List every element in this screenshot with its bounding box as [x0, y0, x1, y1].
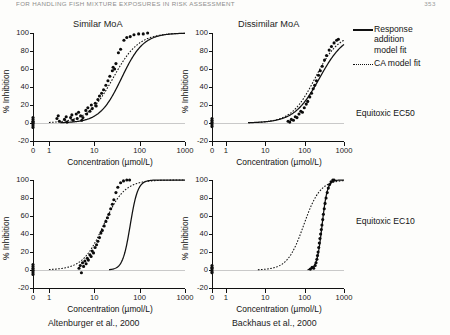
data-point: [314, 264, 317, 267]
legend: Response addition model fit CA model fit: [353, 24, 449, 70]
y-tick-label: -20: [7, 283, 29, 292]
data-point: [312, 87, 315, 90]
data-point: [119, 181, 122, 184]
y-axis-title: % Inhibition: [180, 217, 190, 260]
x-tick: [33, 289, 34, 293]
data-point: [313, 84, 316, 87]
x-tick-label: 10: [252, 146, 278, 155]
x-tick: [226, 289, 227, 293]
data-point: [79, 264, 82, 267]
data-point: [314, 261, 317, 264]
row-label-ec10: Equitoxic EC10: [356, 216, 415, 226]
data-layer-dissimilar-ec10: [212, 180, 344, 288]
curve-ca-model-fit: [49, 33, 185, 122]
data-point: [320, 223, 323, 226]
data-point: [326, 191, 329, 194]
data-point: [114, 191, 117, 194]
data-point: [322, 213, 325, 216]
x-axis-title: Concentration (µmol/L): [60, 157, 160, 167]
data-point: [315, 258, 318, 261]
x-tick: [305, 142, 306, 146]
data-point: [108, 75, 111, 78]
dotted-line-icon: [353, 64, 373, 65]
x-tick: [49, 289, 50, 293]
data-point: [63, 118, 66, 121]
y-tick-label: -20: [186, 283, 208, 292]
x-tick: [212, 142, 213, 146]
data-point: [117, 51, 120, 54]
data-point: [317, 250, 320, 253]
y-tick: [30, 234, 34, 235]
data-point: [114, 62, 117, 65]
x-tick-label: 1: [36, 146, 62, 155]
y-tick: [30, 123, 34, 124]
data-point: [328, 183, 331, 186]
data-layer-similar-ec50: [33, 33, 185, 141]
data-point: [81, 116, 84, 119]
x-tick: [212, 289, 213, 293]
x-tick-label: 10: [81, 146, 107, 155]
x-axis-line: [212, 288, 344, 289]
data-point: [86, 106, 89, 109]
data-point: [98, 236, 101, 239]
data-point: [333, 41, 336, 44]
data-point: [88, 110, 91, 113]
curve-response-addition-model-fit: [308, 180, 344, 270]
data-point: [295, 116, 298, 119]
data-point: [122, 179, 125, 182]
data-point: [69, 116, 72, 119]
x-tick-label: 10: [252, 293, 278, 302]
row-label-ec50: Equitoxic EC50: [356, 108, 415, 118]
panel-title-similar: Similar MoA: [73, 19, 123, 29]
y-tick-label: 100: [7, 28, 29, 37]
x-axis-title: Concentration (µmol/L): [229, 157, 329, 167]
data-point: [328, 49, 331, 52]
caption-left: Altenburger et al., 2000: [48, 318, 139, 328]
data-point: [125, 36, 128, 39]
y-tick: [30, 69, 34, 70]
data-point: [90, 103, 93, 106]
y-tick-label: 100: [186, 28, 208, 37]
page-number: 353: [424, 0, 436, 7]
plot-area-dissimilar-ec10: [212, 180, 344, 288]
y-axis-title: % Inhibition: [180, 70, 190, 113]
x-tick-label: 10: [81, 293, 107, 302]
x-tick-label: 1000: [331, 146, 357, 155]
y-tick: [30, 270, 34, 271]
data-point: [96, 240, 99, 243]
data-point: [104, 220, 107, 223]
x-tick-label: 100: [292, 146, 318, 155]
x-tick-label: 1: [36, 293, 62, 302]
y-tick: [30, 216, 34, 217]
y-tick-label: 0: [7, 265, 29, 274]
y-tick: [30, 105, 34, 106]
data-point: [103, 224, 106, 227]
y-tick: [30, 51, 34, 52]
y-tick: [209, 51, 213, 52]
y-tick-label: 80: [7, 46, 29, 55]
data-layer-similar-ec10: [33, 180, 185, 288]
data-point: [128, 178, 131, 181]
data-point: [319, 69, 322, 72]
x-axis-line: [33, 141, 185, 142]
data-point: [316, 254, 319, 257]
data-point: [94, 102, 97, 105]
data-point: [80, 119, 83, 122]
x-tick: [140, 142, 141, 146]
x-tick-label: 100: [127, 146, 153, 155]
data-point: [297, 112, 300, 115]
data-point: [77, 111, 80, 114]
plot-area-similar-ec10: [33, 180, 185, 288]
data-point: [129, 35, 132, 38]
x-tick-label: 100: [292, 293, 318, 302]
data-point: [87, 259, 90, 262]
data-point: [327, 187, 330, 190]
data-point: [106, 216, 109, 219]
data-point: [92, 251, 95, 254]
data-point: [321, 218, 324, 221]
data-point: [122, 39, 125, 42]
legend-label-response-addition-3: model fit: [374, 45, 449, 55]
data-point: [330, 45, 333, 48]
data-point: [142, 32, 145, 35]
caption-right: Backhaus et al., 2000: [232, 318, 317, 328]
